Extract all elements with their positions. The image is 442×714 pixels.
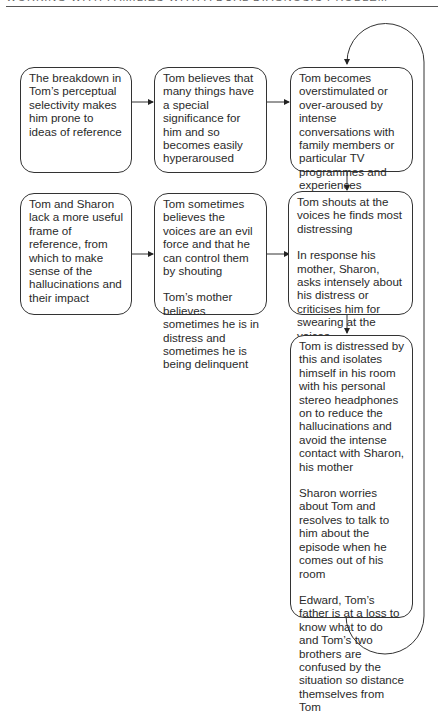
box-shouts-at-voices: Tom shouts at the voices he finds most d…: [288, 191, 413, 315]
box-text: Edward, Tom’s father is at a loss to kno…: [299, 593, 405, 714]
box-text: Tom is distressed by this and isolates h…: [299, 339, 405, 473]
box-special-significance: Tom believes that many things have a spe…: [154, 67, 267, 173]
box-text: Tom shouts at the voices he finds most d…: [297, 195, 405, 235]
box-text: In response his mother, Sharon, asks int…: [297, 248, 405, 342]
box-overstimulated-hallucinations: Tom becomes overstimulated or over-arous…: [290, 67, 413, 172]
box-beliefs-about-voices: Tom sometimes believes the voices are an…: [154, 193, 267, 315]
box-text: The breakdown in Tom’s perceptual select…: [29, 71, 124, 138]
box-isolation-and-family-response: Tom is distressed by this and isolates h…: [290, 335, 413, 618]
box-text: Tom sometimes believes the voices are an…: [163, 197, 259, 277]
box-text: Sharon worries about Tom and resolves to…: [299, 486, 405, 580]
box-text: Tom and Sharon lack a more useful frame …: [29, 197, 124, 304]
box-text: Tom’s mother believes sometimes he is in…: [163, 290, 259, 370]
box-lack-frame-of-reference: Tom and Sharon lack a more useful frame …: [20, 193, 132, 315]
box-text: Tom believes that many things have a spe…: [163, 71, 259, 165]
box-perceptual-breakdown: The breakdown in Tom’s perceptual select…: [20, 67, 132, 173]
